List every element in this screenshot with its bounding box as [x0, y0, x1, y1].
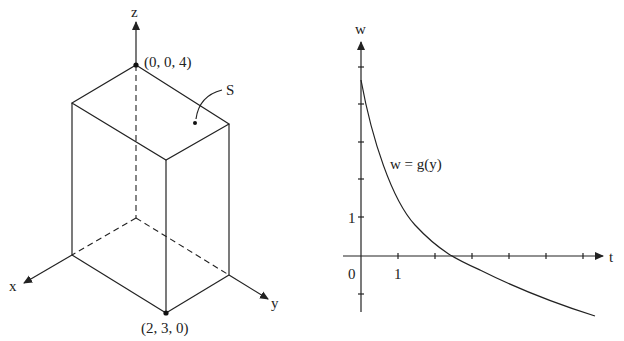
- surface-s-pointer: [196, 90, 222, 119]
- y-axis-label: y: [271, 295, 279, 311]
- w-one-label: 1: [348, 210, 356, 226]
- graph: w t 0 1 1 w = g(y): [343, 21, 614, 316]
- t-axis-label: t: [609, 249, 614, 265]
- curve-label: w = g(y): [390, 156, 442, 173]
- point-top-vertex: [133, 62, 138, 67]
- edge-bottom-left: [72, 255, 166, 313]
- hidden-edge-y: [136, 218, 229, 275]
- w-axis-label: w: [355, 21, 366, 37]
- top-face: [72, 65, 229, 160]
- point-bottom-vertex: [163, 310, 168, 315]
- point-surface-s: [193, 121, 197, 125]
- t-one-label: 1: [394, 266, 402, 282]
- figure-canvas: z x y (0, 0, 4) (2, 3, 0) S: [0, 0, 624, 341]
- hidden-edge-x: [72, 218, 136, 255]
- box-diagram: z x y (0, 0, 4) (2, 3, 0) S: [9, 4, 279, 337]
- bottom-vertex-label: (2, 3, 0): [141, 320, 189, 337]
- origin-label: 0: [348, 266, 356, 282]
- x-axis: [24, 255, 72, 283]
- edge-bottom-right: [166, 275, 229, 313]
- surface-s-label: S: [226, 82, 234, 98]
- x-axis-label: x: [9, 278, 17, 294]
- top-vertex-label: (0, 0, 4): [144, 54, 192, 71]
- y-axis: [229, 275, 268, 299]
- z-axis-label: z: [131, 4, 138, 20]
